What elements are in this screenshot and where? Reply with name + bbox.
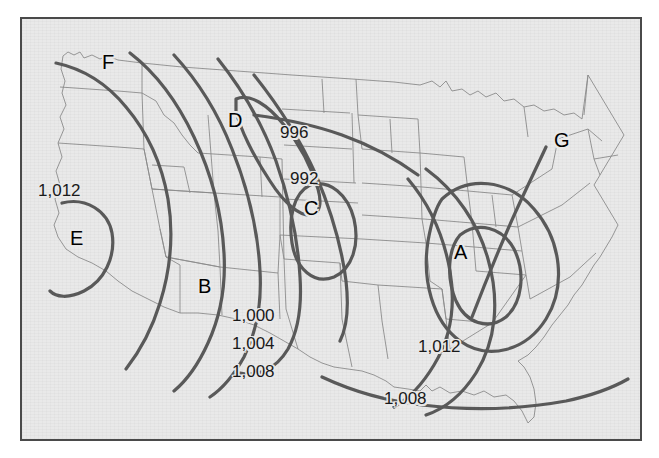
isobar-label-1008-gulf: 1,008 (384, 389, 427, 409)
map-point-e: E (70, 227, 83, 250)
isobar-1008-gulf (322, 377, 628, 408)
map-point-c: C (304, 197, 318, 220)
isobar-label-1012-west: 1,012 (38, 181, 81, 201)
map-point-d: D (228, 109, 242, 132)
isobars (50, 53, 628, 415)
isobar-label-1012-east: 1,012 (418, 337, 461, 357)
isobar-east-trough-a (394, 179, 452, 407)
map-frame: 996 992 1,000 1,004 1,008 1,012 1,012 1,… (20, 17, 642, 441)
isobar-label-1008-west: 1,008 (232, 362, 275, 382)
map-point-b: B (198, 275, 211, 298)
isobar-label-1000: 1,000 (232, 306, 275, 326)
map-point-a: A (454, 241, 467, 264)
map-canvas (22, 19, 640, 439)
pressure-map-figure: 996 992 1,000 1,004 1,008 1,012 1,012 1,… (0, 0, 659, 458)
isobar-label-1004: 1,004 (232, 334, 275, 354)
isobar-label-992: 992 (290, 169, 318, 189)
isobar-1000 (218, 59, 301, 374)
isobar-g-diagonal (472, 147, 546, 317)
isobar-f-arm (56, 63, 171, 369)
isobar-label-996: 996 (280, 123, 308, 143)
map-point-g: G (554, 129, 570, 152)
map-point-f: F (102, 51, 114, 74)
